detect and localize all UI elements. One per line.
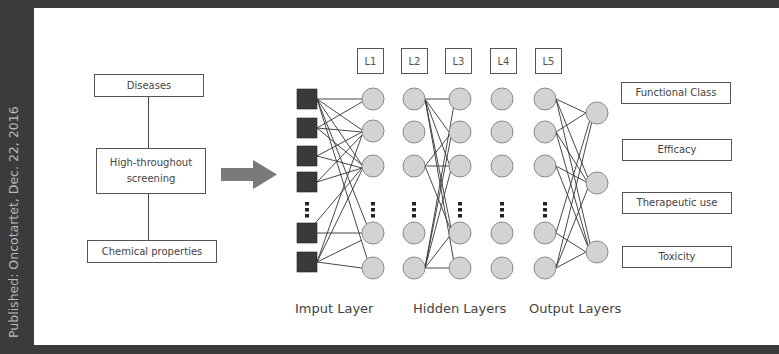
- input-layer-nodes: [297, 89, 317, 272]
- connections-l2-l3: [425, 99, 455, 268]
- output-label: Efficacy: [657, 142, 696, 158]
- output-label: Therapeutic use: [637, 195, 718, 211]
- arrow-right-icon: [221, 160, 277, 189]
- output-efficacy: Efficacy: [622, 139, 732, 161]
- output-label: Toxicity: [658, 249, 695, 265]
- layer-label-l4: L4: [490, 48, 517, 74]
- layer-label-l3: L3: [445, 48, 472, 74]
- layer-label-l1: L1: [357, 48, 384, 74]
- input-node: [297, 146, 317, 166]
- layer-label-l2: L2: [401, 48, 428, 74]
- output-functional-class: Functional Class: [621, 82, 731, 104]
- hidden-layer-nodes: [362, 88, 556, 279]
- input-layer-caption: Imput Layer: [295, 301, 373, 316]
- neural-network-diagram: [0, 0, 779, 354]
- output-therapeutic-use: Therapeutic use: [622, 192, 732, 214]
- input-node: [297, 223, 317, 243]
- hidden-layers-caption: Hidden Layers: [413, 301, 506, 316]
- output-toxicity: Toxicity: [622, 246, 732, 268]
- input-node: [297, 252, 317, 272]
- output-layers-caption: Output Layers: [529, 301, 621, 316]
- ellipsis-dots: [305, 202, 547, 218]
- input-node: [297, 89, 317, 109]
- layer-label-l5: L5: [535, 48, 562, 74]
- output-label: Functional Class: [636, 85, 717, 101]
- input-node: [297, 172, 317, 192]
- input-node: [297, 118, 317, 138]
